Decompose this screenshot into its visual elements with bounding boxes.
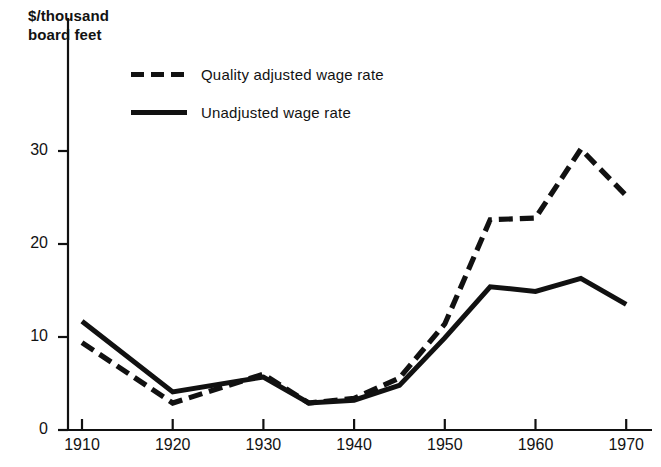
x-axis-tick-label: 1950 <box>415 436 475 454</box>
x-axis-tick-label: 1940 <box>324 436 384 454</box>
y-axis-tick-label: 30 <box>8 141 48 159</box>
series-line-unadjusted-wage-rate <box>82 278 626 403</box>
data-series-layer <box>82 149 626 403</box>
x-axis-tick-label: 1920 <box>143 436 203 454</box>
y-axis-tick-label: 0 <box>8 420 48 438</box>
x-axis-tick-label: 1970 <box>596 436 656 454</box>
series-line-quality-adjusted-wage-rate <box>82 149 626 403</box>
y-axis-ticks <box>58 151 68 430</box>
plot-canvas <box>0 0 661 467</box>
chart-figure: $/thousand board feet Quality adjusted w… <box>0 0 661 467</box>
x-axis-tick-label: 1960 <box>506 436 566 454</box>
x-axis-tick-label: 1910 <box>52 436 112 454</box>
x-axis-tick-label: 1930 <box>233 436 293 454</box>
axes-group <box>68 18 652 431</box>
x-axis-ticks <box>82 419 626 430</box>
y-axis-tick-label: 20 <box>8 234 48 252</box>
y-axis-tick-label: 10 <box>8 327 48 345</box>
